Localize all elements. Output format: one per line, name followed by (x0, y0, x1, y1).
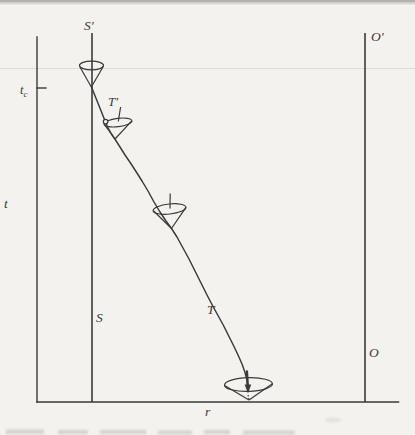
r-axis-label: r (205, 404, 211, 419)
cone-2-side-right (115, 121, 132, 139)
trajectory-arrowhead (245, 385, 252, 394)
page-top-edge-band (0, 0, 415, 3)
cone-2-rim-crossing-circle (103, 119, 108, 124)
light-cone-2 (103, 107, 132, 139)
cone-3-side-right (172, 207, 186, 228)
trajectory-arrow-shaft (247, 372, 248, 387)
s-label: S (96, 310, 103, 325)
t-prime-label: T′ (108, 94, 118, 109)
cutoff-caption-remnant (6, 418, 341, 435)
s-prime-label: S′ (84, 18, 95, 33)
trajectory-curve (92, 87, 248, 387)
cone-4-side-right (249, 384, 272, 400)
tc-label: tc (20, 83, 27, 99)
cone-4-side-left (225, 386, 249, 401)
o-label: O (369, 345, 379, 360)
o-prime-label: O′ (371, 29, 385, 44)
t-axis-label: t (4, 196, 9, 211)
figure-spacetime-diagram: S′ O′ tc t T′ S T O r (0, 0, 415, 435)
light-cone-3 (153, 194, 187, 229)
cone-3-side-left (153, 211, 171, 229)
cone-2-axis-spike (118, 107, 120, 122)
page-top-edge-fade (0, 3, 415, 5)
